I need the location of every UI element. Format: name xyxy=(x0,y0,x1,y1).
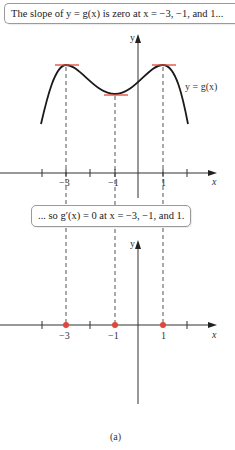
x-axis-label-top: x xyxy=(211,176,217,187)
callout-slope-zero: The slope of y = g(x) is zero at x = −3,… xyxy=(4,3,235,24)
y-axis-label-top: y xyxy=(130,32,135,43)
tick-label: −3 xyxy=(59,177,70,188)
graph-g: y x −3 −1 1 y = g(x) xyxy=(0,32,217,324)
subfigure-label: (a) xyxy=(110,431,121,443)
tick-label: −1 xyxy=(108,330,119,341)
tick-label: −1 xyxy=(108,177,119,188)
y-axis-arrow-icon xyxy=(135,240,141,249)
tick-label: 1 xyxy=(161,330,166,341)
y-axis-label-bottom: y xyxy=(130,238,135,249)
tick-label: 1 xyxy=(161,177,166,188)
dashed-guides xyxy=(66,67,163,324)
callout-derivative-zero: ... so g′(x) = 0 at x = −3, −1, and 1. xyxy=(31,205,191,227)
x-axis-label-bottom: x xyxy=(211,329,217,340)
curve-label: y = g(x) xyxy=(185,81,217,93)
x-axis-arrow-icon xyxy=(208,322,217,328)
y-axis-arrow-icon xyxy=(135,34,141,43)
tick-label: −3 xyxy=(59,330,70,341)
graph-g-prime: y x −3 −1 1 xyxy=(0,238,217,404)
horizontal-tangents xyxy=(55,65,176,95)
